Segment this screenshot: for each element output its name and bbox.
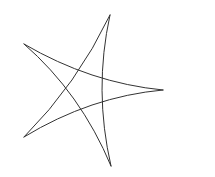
- star-edge-upper-left-to-right: [24, 44, 163, 90]
- diagram-canvas: [0, 0, 215, 177]
- star-edge-top-to-lower-left: [24, 15, 110, 137]
- star-edge-upper-left-to-bottom: [24, 44, 111, 166]
- star-edge-top-to-bottom: [102, 15, 111, 166]
- curved-star-figure: [0, 0, 215, 177]
